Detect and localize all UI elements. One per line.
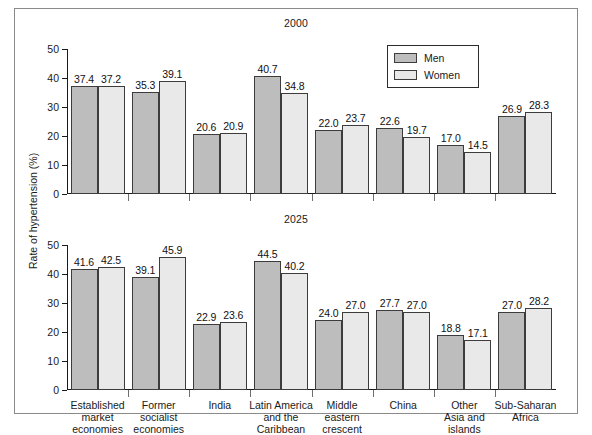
bar-value-label: 23.6 bbox=[223, 309, 243, 321]
legend-swatch-men-icon bbox=[394, 53, 417, 63]
bar-value-label: 20.9 bbox=[223, 120, 243, 132]
bar-men bbox=[71, 269, 98, 390]
y-axis-line bbox=[67, 49, 68, 194]
x-axis-tick-mark bbox=[189, 194, 190, 201]
y-axis-tick-mark bbox=[62, 78, 67, 79]
bar-men bbox=[132, 277, 159, 390]
bar-women bbox=[403, 312, 430, 390]
bar-women bbox=[342, 125, 369, 194]
bar-women bbox=[464, 340, 491, 390]
x-axis-tick-mark bbox=[128, 390, 129, 397]
bar-value-label: 22.9 bbox=[196, 311, 216, 323]
y-axis-line bbox=[67, 245, 68, 390]
bar-men bbox=[498, 116, 525, 194]
bar-value-label: 35.3 bbox=[135, 79, 155, 91]
panel-title-2025: 2025 bbox=[15, 213, 577, 225]
bar-value-label: 34.8 bbox=[284, 80, 304, 92]
bar-value-label: 18.8 bbox=[441, 322, 461, 334]
y-axis-tick-label: 20 bbox=[47, 130, 59, 142]
bar-women bbox=[403, 137, 430, 194]
bar-value-label: 41.6 bbox=[74, 256, 94, 268]
y-axis-tick-mark bbox=[62, 136, 67, 137]
bar-value-label: 37.4 bbox=[74, 73, 94, 85]
bar-women bbox=[281, 93, 308, 194]
plot-area-2025: 0102030405041.642.539.145.922.923.644.54… bbox=[67, 245, 556, 390]
bar-value-label: 17.1 bbox=[468, 327, 488, 339]
bar-women bbox=[159, 257, 186, 390]
legend-label-women: Women bbox=[424, 69, 460, 81]
bar-men bbox=[254, 76, 281, 194]
legend-item-women: Women bbox=[394, 68, 469, 82]
y-axis-tick-mark bbox=[62, 194, 67, 195]
plot-area-2000: 0102030405037.437.235.339.120.620.940.73… bbox=[67, 49, 556, 194]
legend-item-men: Men bbox=[394, 51, 469, 65]
bar-women bbox=[464, 152, 491, 194]
bar-value-label: 40.7 bbox=[257, 63, 277, 75]
x-axis-tick-mark bbox=[250, 390, 251, 397]
bar-value-label: 37.2 bbox=[101, 73, 121, 85]
bar-value-label: 39.1 bbox=[162, 68, 182, 80]
bar-men bbox=[315, 130, 342, 194]
bar-value-label: 27.0 bbox=[407, 299, 427, 311]
x-axis-tick-mark bbox=[434, 194, 435, 201]
bar-value-label: 22.0 bbox=[319, 117, 339, 129]
bar-value-label: 28.2 bbox=[529, 295, 549, 307]
bar-men bbox=[254, 261, 281, 390]
bar-value-label: 22.6 bbox=[380, 115, 400, 127]
bar-value-label: 14.5 bbox=[468, 139, 488, 151]
bar-women bbox=[220, 133, 247, 194]
y-axis-tick-label: 30 bbox=[47, 101, 59, 113]
bar-women bbox=[98, 86, 125, 194]
y-axis-tick-label: 10 bbox=[47, 159, 59, 171]
y-axis-tick-mark bbox=[62, 274, 67, 275]
bar-men bbox=[437, 145, 464, 194]
x-axis-tick-mark bbox=[128, 194, 129, 201]
bar-women bbox=[342, 312, 369, 390]
y-axis-tick-mark bbox=[62, 361, 67, 362]
x-axis-category-label: Sub-Saharan Africa bbox=[488, 400, 563, 424]
y-axis-label: Rate of hypertension (%) bbox=[27, 153, 39, 269]
bar-men bbox=[71, 86, 98, 194]
y-axis-tick-label: 0 bbox=[53, 188, 59, 200]
bar-men bbox=[498, 312, 525, 390]
figure-frame: Rate of hypertension (%) 2000 0102030405… bbox=[14, 8, 578, 414]
x-axis-tick-mark bbox=[250, 194, 251, 201]
bar-value-label: 26.9 bbox=[502, 103, 522, 115]
bar-value-label: 39.1 bbox=[135, 264, 155, 276]
bar-value-label: 20.6 bbox=[196, 121, 216, 133]
y-axis-tick-label: 50 bbox=[47, 239, 59, 251]
legend: Men Women bbox=[387, 45, 479, 88]
bar-women bbox=[525, 112, 552, 194]
bar-men bbox=[376, 310, 403, 390]
x-axis-tick-mark bbox=[312, 390, 313, 397]
bar-value-label: 28.3 bbox=[529, 99, 549, 111]
x-axis-tick-mark bbox=[373, 390, 374, 397]
x-axis-tick-mark bbox=[312, 194, 313, 201]
y-axis-tick-label: 20 bbox=[47, 326, 59, 338]
y-axis-tick-label: 40 bbox=[47, 72, 59, 84]
bar-men bbox=[193, 324, 220, 390]
bar-value-label: 23.7 bbox=[346, 112, 366, 124]
bar-value-label: 24.0 bbox=[319, 307, 339, 319]
y-axis-tick-label: 30 bbox=[47, 297, 59, 309]
bar-value-label: 44.5 bbox=[257, 248, 277, 260]
legend-swatch-women-icon bbox=[394, 70, 417, 80]
y-axis-tick-label: 0 bbox=[53, 384, 59, 396]
legend-label-men: Men bbox=[424, 52, 444, 64]
x-axis-tick-mark bbox=[495, 194, 496, 201]
y-axis-tick-mark bbox=[62, 390, 67, 391]
bar-women bbox=[220, 322, 247, 390]
y-axis-tick-mark bbox=[62, 107, 67, 108]
y-axis-tick-mark bbox=[62, 303, 67, 304]
x-axis-tick-mark bbox=[495, 390, 496, 397]
y-axis-tick-label: 10 bbox=[47, 355, 59, 367]
bar-men bbox=[376, 128, 403, 194]
bar-women bbox=[525, 308, 552, 390]
bar-value-label: 17.0 bbox=[441, 132, 461, 144]
x-axis-tick-mark bbox=[189, 390, 190, 397]
bar-value-label: 19.7 bbox=[407, 124, 427, 136]
x-axis-tick-mark bbox=[373, 194, 374, 201]
bar-women bbox=[159, 81, 186, 194]
bar-men bbox=[132, 92, 159, 194]
bar-men bbox=[193, 134, 220, 194]
